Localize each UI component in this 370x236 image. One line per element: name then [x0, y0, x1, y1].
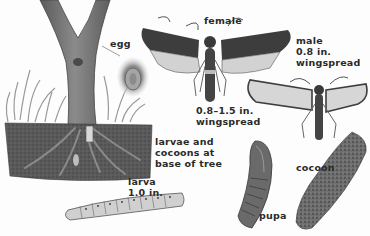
illustration-plate: egg female 0.8–1.5 in. wingspread male 0…: [0, 0, 370, 236]
male-wingspread-label: male 0.8 in. wingspread: [296, 35, 360, 68]
larva-label: larva 1.0 in.: [128, 176, 163, 198]
pupa-label: pupa: [259, 210, 287, 221]
male-moth: [248, 77, 367, 140]
cocoon-shape: [296, 132, 366, 229]
larva-shape: [65, 193, 184, 220]
egg-label: egg: [110, 38, 131, 49]
larvae-base-label: larvae and cocoons at base of tree: [155, 136, 222, 169]
female-wingspread-label: 0.8–1.5 in. wingspread: [196, 105, 260, 127]
cocoon-label: cocoon: [296, 162, 335, 173]
female-label: female: [204, 15, 242, 26]
